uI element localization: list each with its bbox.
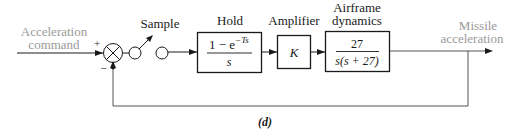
summing-junction bbox=[104, 44, 123, 63]
airframe-label-line2: dynamics bbox=[332, 13, 382, 28]
plus-sign: + bbox=[94, 37, 100, 49]
airframe-numerator: 27 bbox=[351, 37, 363, 51]
sampler-switch bbox=[129, 35, 168, 59]
hold-numerator: 1 − e bbox=[209, 37, 235, 52]
output-label-line2: acceleration bbox=[441, 31, 504, 46]
hold-exponent: −Ts bbox=[235, 35, 249, 45]
output-arrowhead bbox=[485, 48, 493, 54]
sampler-label: Sample bbox=[141, 16, 180, 31]
airframe-denominator: s(s + 27) bbox=[335, 54, 378, 68]
input-label-line2: command bbox=[28, 37, 80, 52]
diagram-caption: (d) bbox=[258, 115, 272, 129]
amplifier-gain: K bbox=[289, 45, 300, 60]
block-diagram: Acceleration command + − Sample Hold 1 −… bbox=[0, 0, 511, 135]
hold-label: Hold bbox=[217, 13, 244, 28]
minus-sign: − bbox=[101, 61, 108, 75]
hold-denominator: s bbox=[227, 55, 232, 69]
amplifier-label: Amplifier bbox=[268, 13, 320, 28]
